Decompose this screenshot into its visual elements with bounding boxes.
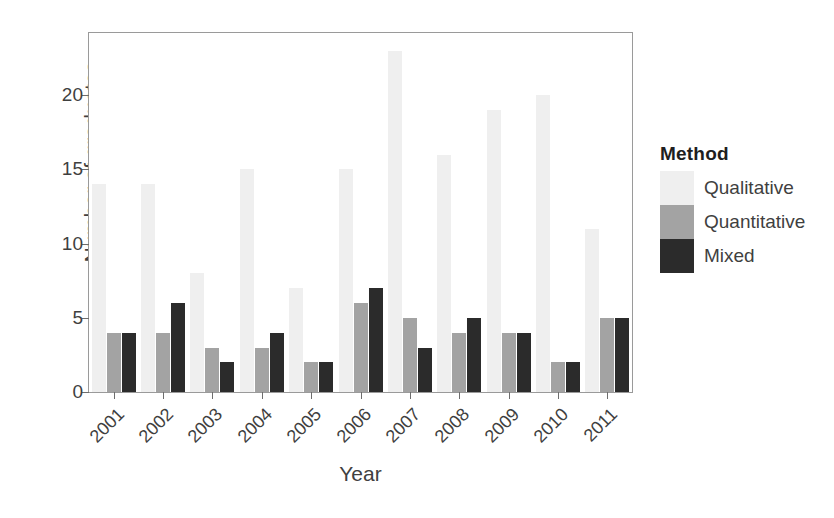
x-tick-mark: [212, 392, 213, 399]
x-tick-label-text: 2005: [283, 404, 326, 447]
x-tick-label-text: 2011: [580, 404, 622, 446]
bar: [339, 169, 353, 392]
legend-label: Quantitative: [704, 211, 805, 233]
bar: [418, 348, 432, 393]
legend-item-quantitative: Quantitative: [660, 205, 830, 239]
x-tick-mark: [262, 392, 263, 399]
bar: [566, 362, 580, 392]
x-tick-mark: [459, 392, 460, 399]
y-tick-mark: [82, 244, 89, 245]
bar: [388, 51, 402, 392]
plot-area: 0510152020012002200320042005200620072008…: [89, 33, 632, 392]
legend: Method QualitativeQuantitativeMixed: [660, 143, 830, 273]
legend-item-mixed: Mixed: [660, 239, 830, 273]
y-tick-label: 10: [62, 233, 83, 255]
bar: [517, 333, 531, 392]
legend-label: Mixed: [704, 245, 755, 267]
legend-title: Method: [660, 143, 830, 165]
bar: [255, 348, 269, 393]
bar: [220, 362, 234, 392]
bar: [205, 348, 219, 393]
y-tick-label: 5: [72, 307, 83, 329]
x-tick-label-text: 2008: [431, 404, 474, 447]
bar: [369, 288, 383, 392]
bar: [551, 362, 565, 392]
x-tick-label-text: 2003: [184, 404, 227, 447]
bar: [600, 318, 614, 392]
x-tick-label-text: 2010: [530, 404, 573, 447]
y-tick-label: 20: [62, 84, 83, 106]
legend-swatch: [660, 205, 694, 239]
bar: [171, 303, 185, 392]
x-tick-mark: [509, 392, 510, 399]
y-tick-label: 0: [72, 381, 83, 403]
x-tick-mark: [410, 392, 411, 399]
bar: [92, 184, 106, 392]
x-tick-mark: [607, 392, 608, 399]
legend-items: QualitativeQuantitativeMixed: [660, 171, 830, 273]
bar-chart-figure: Number of graduates 05101520200120022003…: [0, 0, 834, 518]
bar: [122, 333, 136, 392]
bar: [289, 288, 303, 392]
y-tick-mark: [82, 392, 89, 393]
x-tick-mark: [311, 392, 312, 399]
bar: [615, 318, 629, 392]
bar: [452, 333, 466, 392]
bar: [141, 184, 155, 392]
y-tick-mark: [82, 318, 89, 319]
bar: [156, 333, 170, 392]
bar: [354, 303, 368, 392]
legend-label: Qualitative: [704, 177, 794, 199]
x-axis-title: Year: [88, 462, 633, 486]
bar: [319, 362, 333, 392]
bar: [585, 229, 599, 392]
bar: [536, 95, 550, 392]
bar: [487, 110, 501, 392]
bar: [107, 333, 121, 392]
x-tick-mark: [114, 392, 115, 399]
x-tick-mark: [558, 392, 559, 399]
legend-item-qualitative: Qualitative: [660, 171, 830, 205]
plot-panel: 0510152020012002200320042005200620072008…: [88, 32, 633, 393]
bar: [467, 318, 481, 392]
legend-swatch: [660, 239, 694, 273]
y-tick-mark: [82, 169, 89, 170]
x-tick-mark: [163, 392, 164, 399]
y-tick-mark: [82, 95, 89, 96]
bar: [403, 318, 417, 392]
y-tick-label: 15: [62, 158, 83, 180]
bar: [437, 155, 451, 392]
bar: [240, 169, 254, 392]
legend-swatch: [660, 171, 694, 205]
bar: [304, 362, 318, 392]
x-tick-mark: [361, 392, 362, 399]
x-tick-label-text: 2006: [332, 404, 375, 447]
x-tick-label-text: 2002: [135, 404, 178, 447]
bar: [502, 333, 516, 392]
bar: [190, 273, 204, 392]
x-tick-label-text: 2001: [85, 404, 128, 447]
x-tick-label-text: 2009: [480, 404, 523, 447]
x-tick-label-text: 2007: [382, 404, 425, 447]
bar: [270, 333, 284, 392]
x-tick-label-text: 2004: [233, 404, 276, 447]
